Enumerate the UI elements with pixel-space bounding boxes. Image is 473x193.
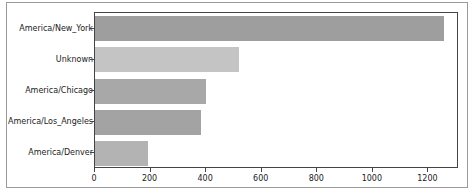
x-tick-label: 200: [142, 174, 157, 183]
bar: [95, 79, 206, 104]
plot-area: [94, 12, 458, 168]
bar: [95, 47, 239, 72]
x-tick: [150, 168, 151, 172]
bar: [95, 141, 148, 166]
x-tick: [94, 168, 95, 172]
y-tick-label: America/New_York: [19, 23, 93, 32]
y-tick-label: Unknown: [56, 54, 93, 63]
y-tick: [90, 59, 94, 60]
y-tick: [90, 121, 94, 122]
x-tick-label: 0: [91, 174, 96, 183]
x-tick: [261, 168, 262, 172]
x-tick: [205, 168, 206, 172]
x-tick-label: 800: [309, 174, 324, 183]
y-tick: [90, 28, 94, 29]
x-tick-label: 600: [253, 174, 268, 183]
bar: [95, 110, 201, 135]
x-tick-label: 1200: [417, 174, 437, 183]
x-tick: [372, 168, 373, 172]
y-tick-label: America/Los_Angeles: [8, 117, 93, 126]
x-tick: [427, 168, 428, 172]
y-tick: [90, 90, 94, 91]
x-tick: [316, 168, 317, 172]
bar: [95, 16, 444, 41]
x-tick-label: 400: [198, 174, 213, 183]
y-tick-label: America/Denver: [28, 148, 93, 157]
x-tick-label: 1000: [362, 174, 382, 183]
y-tick: [90, 152, 94, 153]
y-tick-label: America/Chicago: [25, 86, 93, 95]
